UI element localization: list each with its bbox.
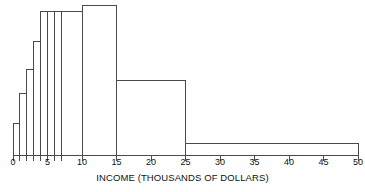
x-tick-label: 25 — [180, 157, 190, 167]
x-tick-label: 0 — [10, 157, 15, 167]
histogram-chart: 05101520253035404550 INCOME (THOUSANDS O… — [0, 0, 365, 192]
histogram-bar — [186, 143, 359, 155]
x-tick-label: 10 — [77, 157, 87, 167]
x-tick-label: 20 — [146, 157, 156, 167]
histogram-bar — [82, 5, 117, 155]
bars-group — [13, 5, 358, 155]
x-axis-title: INCOME (THOUSANDS OF DOLLARS) — [0, 172, 365, 183]
x-tick-label: 50 — [353, 157, 363, 167]
x-tick-label: 30 — [215, 157, 225, 167]
histogram-bar — [41, 11, 48, 155]
x-tick-label: 15 — [111, 157, 121, 167]
histogram-bar — [13, 124, 20, 156]
histogram-bar — [61, 11, 82, 155]
histogram-bar — [34, 41, 41, 155]
histogram-bar — [117, 80, 186, 155]
histogram-bar — [27, 70, 34, 156]
x-tick-label: 35 — [249, 157, 259, 167]
x-tick-label: 5 — [45, 157, 50, 167]
histogram-bar — [20, 94, 27, 156]
x-tick-label: 45 — [318, 157, 328, 167]
histogram-bar — [54, 11, 61, 155]
x-tick-label: 40 — [284, 157, 294, 167]
histogram-bar — [48, 11, 55, 155]
